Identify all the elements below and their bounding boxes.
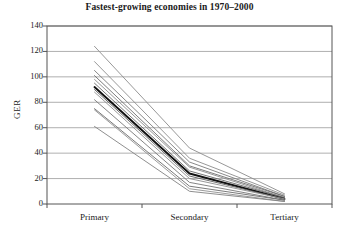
series-line-economy-12 — [95, 110, 285, 202]
series-line-economy-13 — [95, 126, 285, 201]
plot-frame — [47, 26, 332, 204]
x-tick-label-tertiary: Tertiary — [240, 212, 330, 222]
series-line-economy-2 — [95, 62, 285, 196]
series-line-economy-10 — [95, 100, 285, 200]
x-tick-label-primary: Primary — [50, 212, 140, 222]
chart-figure: Fastest-growing economies in 1970–2000 G… — [0, 0, 339, 243]
series-line-economy-1 — [95, 46, 285, 193]
x-tick-label-secondary: Secondary — [145, 212, 235, 222]
plot-area — [0, 0, 339, 243]
